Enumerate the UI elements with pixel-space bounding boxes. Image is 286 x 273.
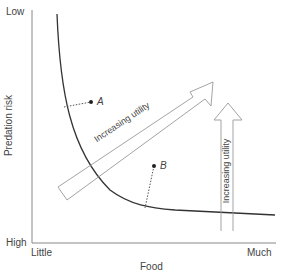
y-axis-title: Predation risk — [3, 95, 14, 156]
vertical-arrow-label: Increasing utility — [221, 139, 231, 204]
y-axis-top-label: Low — [6, 6, 24, 17]
diagonal-utility-arrow — [58, 82, 213, 200]
point-b-label: B — [160, 160, 167, 171]
x-axis-right-label: Much — [247, 247, 271, 258]
point-a-connector — [64, 102, 91, 107]
point-b-connector — [145, 166, 154, 208]
point-a-marker — [89, 100, 93, 104]
x-axis-left-label: Little — [31, 247, 52, 258]
x-axis-title: Food — [140, 261, 163, 272]
y-axis-bottom-label: High — [6, 237, 27, 248]
point-b-marker — [152, 164, 156, 168]
diagram-canvas — [0, 0, 286, 273]
point-a-label: A — [97, 96, 104, 107]
